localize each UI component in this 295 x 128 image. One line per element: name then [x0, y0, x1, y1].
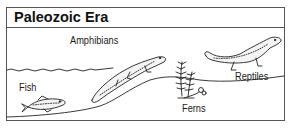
reptile-drawing: [205, 37, 281, 70]
fish-drawing: [22, 96, 65, 112]
label-reptiles: Reptiles: [235, 70, 268, 82]
label-amphibians: Amphibians: [70, 34, 118, 46]
paleozoic-illustration: [0, 0, 295, 128]
label-fish: Fish: [19, 81, 36, 93]
amphibian-drawing: [92, 57, 166, 103]
water-surface-line: [7, 68, 113, 71]
label-ferns: Ferns: [182, 102, 206, 114]
